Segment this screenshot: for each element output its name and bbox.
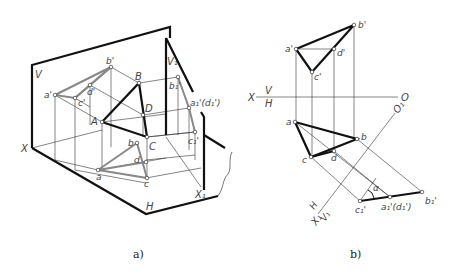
label-a-b: a bbox=[286, 117, 292, 127]
label-b1-prime-b: b₁' bbox=[425, 196, 437, 206]
label-a: a bbox=[96, 172, 102, 182]
label-d-prime: d' bbox=[87, 87, 95, 97]
label-c-prime: c' bbox=[78, 98, 85, 108]
space-triangle bbox=[102, 83, 147, 137]
label-c-prime-b: c' bbox=[314, 72, 321, 82]
label-c-b: c bbox=[302, 155, 307, 165]
caption-a: a) bbox=[133, 248, 144, 261]
label-c1-prime: c₁' bbox=[188, 136, 199, 146]
triangles-b bbox=[295, 25, 422, 201]
plane-outlines-a bbox=[32, 27, 225, 214]
label-X1: X₁ bbox=[194, 189, 206, 200]
axis-label-X: X bbox=[247, 92, 256, 103]
label-X: X bbox=[20, 143, 29, 154]
label-a-prime-b: a' bbox=[285, 44, 293, 54]
caption-b: b) bbox=[350, 248, 361, 261]
label-V: V bbox=[35, 69, 43, 80]
descriptive-geometry-figure: V V₁ H X X₁ B D A C a' b' c' d' a b c d … bbox=[0, 0, 449, 277]
label-C: C bbox=[149, 141, 156, 152]
label-b: b bbox=[128, 138, 134, 148]
break-line bbox=[218, 152, 232, 196]
label-H: H bbox=[146, 201, 154, 212]
label-b1-prime: b₁' bbox=[169, 81, 181, 91]
label-d: d bbox=[134, 155, 140, 165]
points-b bbox=[293, 23, 424, 203]
label-B: B bbox=[135, 71, 142, 82]
label-b-prime: b' bbox=[106, 56, 114, 66]
label-b-prime-b: b' bbox=[358, 20, 366, 30]
label-c1-prime-b: c₁' bbox=[355, 205, 366, 215]
label-d-prime-b: d' bbox=[337, 48, 345, 58]
angle-label-alpha: α bbox=[373, 183, 379, 193]
label-a-prime: a' bbox=[44, 90, 52, 100]
label-V1: V₁ bbox=[167, 56, 178, 67]
label-c: c bbox=[144, 179, 149, 189]
axis-label-H: H bbox=[265, 98, 273, 109]
label-a1d1-prime: a₁'(d₁') bbox=[190, 98, 220, 108]
axis-label-H1: H bbox=[307, 200, 319, 211]
label-A: A bbox=[90, 116, 98, 127]
label-a1d1-prime-b: a₁'(d₁') bbox=[381, 202, 411, 212]
label-b-b: b bbox=[361, 132, 367, 142]
label-d-b: d bbox=[331, 153, 337, 163]
axis-label-O: O bbox=[401, 92, 409, 103]
label-D: D bbox=[145, 103, 153, 114]
axis-label-V: V bbox=[265, 85, 273, 96]
figure-a: V V₁ H X X₁ B D A C a' b' c' d' a b c d … bbox=[20, 27, 232, 261]
figure-b: X V H O O₁ X₁ H V₁ a' b' c' d' a b c d c… bbox=[247, 20, 437, 261]
